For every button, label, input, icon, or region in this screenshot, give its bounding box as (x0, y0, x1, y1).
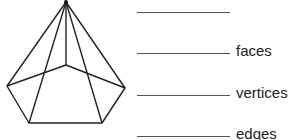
answer-blank-name[interactable] (137, 12, 230, 13)
answer-blank-faces[interactable] (137, 53, 230, 54)
answer-label-vertices: vertices (236, 84, 288, 101)
answer-blank-edges[interactable] (137, 136, 230, 137)
answer-label-edges: edges (236, 125, 277, 140)
answer-blank-vertices[interactable] (137, 95, 230, 96)
pentagonal-pyramid-figure (0, 0, 135, 140)
answer-label-faces: faces (236, 42, 272, 59)
